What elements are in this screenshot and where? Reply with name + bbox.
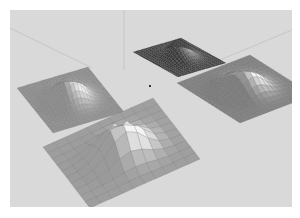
origin-marker-icon (149, 85, 151, 87)
3d-viewport[interactable]: Bump surface (fine tessellation) Bump su… (10, 10, 292, 207)
scene-canvas[interactable] (10, 10, 292, 207)
